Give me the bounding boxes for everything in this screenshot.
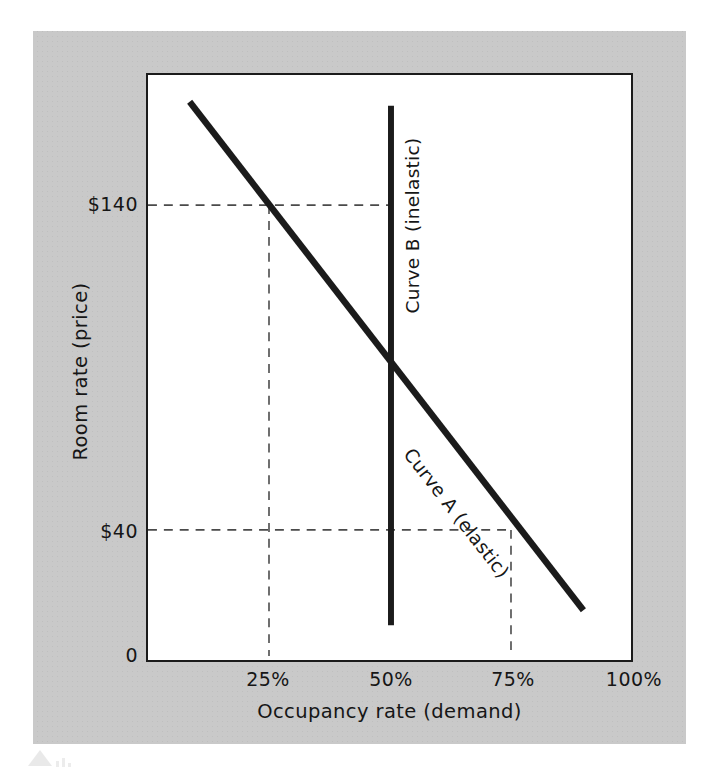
chart-figure: $140 $40 0 25% 50% 75% 100% Occupancy ra…: [0, 0, 709, 773]
plot-graphics: [148, 75, 631, 660]
y-tick-label-140: $140: [52, 193, 138, 215]
curve-b-annotation: Curve B (inelastic): [402, 111, 423, 341]
x-tick-label-50: 50%: [351, 668, 431, 690]
y-tick-label-0: 0: [52, 644, 138, 666]
x-tick-label-100: 100%: [591, 668, 677, 690]
x-tick-label-75: 75%: [473, 668, 553, 690]
y-tick-label-40: $40: [52, 520, 138, 542]
plot-area: [146, 73, 633, 662]
x-axis-title: Occupancy rate (demand): [146, 700, 633, 723]
y-axis-title: Room rate (price): [69, 252, 92, 492]
x-tick-label-25: 25%: [228, 668, 308, 690]
curve-a-line: [190, 102, 584, 611]
scan-watermark-icon: [26, 748, 86, 772]
